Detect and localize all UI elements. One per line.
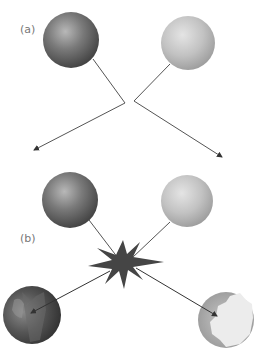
dark-broken-sphere bbox=[3, 286, 61, 344]
collision-diagram bbox=[0, 0, 257, 356]
panel-b bbox=[3, 172, 254, 348]
light-sphere bbox=[161, 16, 215, 70]
panel-a bbox=[34, 12, 222, 157]
light-sphere bbox=[161, 175, 213, 227]
panel-a-label: (a) bbox=[20, 23, 35, 36]
dark-sphere bbox=[43, 12, 99, 68]
collision-starburst-icon bbox=[88, 240, 164, 289]
light-fragment-outgoing-line bbox=[136, 268, 217, 316]
dark-sphere-trajectory-line bbox=[34, 59, 125, 150]
dark-sphere bbox=[42, 172, 98, 228]
light-sphere-incoming-line bbox=[132, 222, 170, 258]
light-sphere-trajectory-line bbox=[134, 64, 222, 157]
light-broken-sphere bbox=[198, 292, 254, 348]
panel-b-label: (b) bbox=[20, 232, 36, 245]
